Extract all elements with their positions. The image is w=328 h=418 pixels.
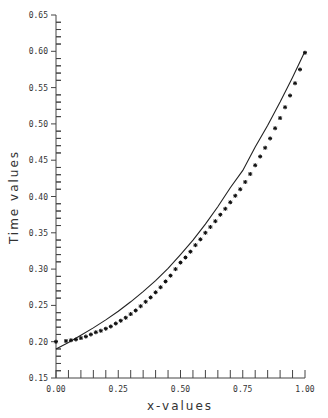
data-point (253, 163, 257, 167)
data-point (288, 94, 292, 98)
x-axis-label: x-values (147, 399, 213, 413)
data-point (213, 219, 217, 223)
y-tick-label: 0.25 (29, 301, 48, 310)
data-point (169, 274, 173, 278)
x-axis: 0.000.250.500.751.00 (46, 370, 314, 394)
y-axis-label: Time values (7, 150, 21, 245)
data-point (129, 312, 133, 316)
data-point (228, 200, 232, 204)
data-point (144, 300, 148, 304)
x-tick-label: 0.25 (109, 385, 128, 394)
x-tick-label: 0.75 (233, 385, 252, 394)
data-point (238, 187, 242, 191)
data-point (124, 316, 128, 320)
y-tick-label: 0.40 (29, 193, 48, 202)
data-point (208, 225, 212, 229)
data-point (273, 126, 277, 130)
data-point (203, 231, 207, 235)
data-point (164, 279, 168, 283)
data-point (218, 213, 222, 217)
data-point (233, 194, 237, 198)
data-point (89, 332, 93, 336)
data-point (268, 136, 272, 140)
data-point (79, 336, 83, 340)
data-point (263, 146, 267, 150)
data-point (174, 267, 178, 271)
data-point (54, 340, 58, 344)
data-point (243, 180, 247, 184)
data-point (114, 322, 118, 326)
data-point (134, 308, 138, 312)
x-tick-label: 0.00 (46, 385, 65, 394)
data-point (104, 327, 108, 331)
data-point (64, 339, 68, 343)
data-point (183, 255, 187, 259)
data-point (139, 304, 143, 308)
y-tick-label: 0.65 (29, 11, 48, 20)
data-point (94, 330, 98, 334)
data-point (99, 329, 103, 333)
y-tick-label: 0.60 (29, 47, 48, 56)
data-point (84, 335, 88, 339)
chart: 0.150.200.250.300.350.400.450.500.550.60… (0, 0, 328, 418)
data-point (119, 319, 123, 323)
data-point (223, 207, 227, 211)
data-point (69, 338, 73, 342)
data-point (179, 261, 183, 265)
y-tick-label: 0.20 (29, 338, 48, 347)
data-markers (54, 51, 307, 344)
data-point (154, 290, 158, 294)
data-point (283, 105, 287, 109)
x-tick-label: 1.00 (295, 385, 314, 394)
y-tick-label: 0.50 (29, 120, 48, 129)
data-point (278, 116, 282, 120)
y-tick-label: 0.35 (29, 229, 48, 238)
data-point (159, 285, 163, 289)
data-point (258, 155, 262, 159)
y-tick-label: 0.55 (29, 84, 48, 93)
data-point (188, 250, 192, 254)
data-point (293, 81, 297, 85)
data-point (198, 237, 202, 241)
data-point (193, 243, 197, 247)
data-point (109, 324, 113, 328)
data-point (298, 67, 302, 71)
y-tick-label: 0.30 (29, 265, 48, 274)
data-point (303, 51, 307, 55)
fitted-curve (56, 51, 305, 349)
data-point (74, 338, 78, 342)
data-point (248, 172, 252, 176)
y-tick-label: 0.15 (29, 374, 48, 383)
y-tick-label: 0.45 (29, 156, 48, 165)
data-point (149, 295, 153, 299)
y-axis: 0.150.200.250.300.350.400.450.500.550.60… (29, 11, 61, 383)
x-tick-label: 0.50 (171, 385, 190, 394)
